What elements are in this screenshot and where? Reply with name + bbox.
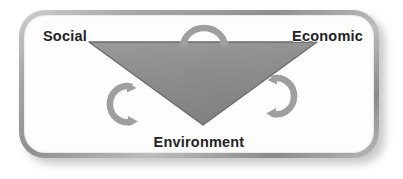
node-label-environment: Environment <box>24 134 374 150</box>
frame-inner-panel: Social Economic Environment <box>24 15 374 153</box>
node-label-social: Social <box>43 28 87 44</box>
right-curved-arrow-icon <box>260 72 302 120</box>
top-curved-arrow-icon <box>175 20 233 50</box>
beveled-frame: Social Economic Environment <box>19 10 379 158</box>
diagram-canvas: Social Economic Environment <box>0 0 403 179</box>
left-curved-arrow-icon <box>102 80 144 128</box>
node-label-economic: Economic <box>292 28 363 44</box>
